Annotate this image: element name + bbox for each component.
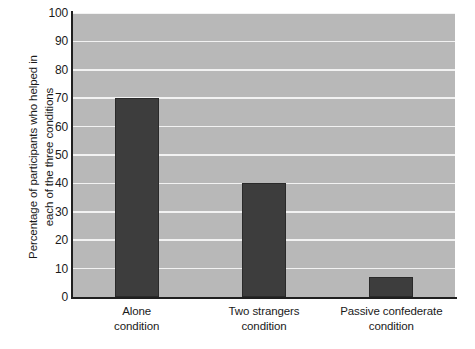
x-tick-label: Two strangerscondition <box>200 304 327 334</box>
x-tick-label-line-1: Two strangers <box>200 304 327 319</box>
x-tick-label-line-1: Passive confederate <box>328 304 455 319</box>
bar <box>242 183 286 297</box>
bar <box>369 277 413 297</box>
y-axis-line <box>71 11 73 299</box>
gridline <box>73 69 455 71</box>
x-tick-label: Alonecondition <box>73 304 200 334</box>
y-tick-label: 90 <box>36 35 68 47</box>
y-tick-label: 100 <box>36 7 68 19</box>
bar-chart-figure: Percentage of participants who helped in… <box>0 0 475 349</box>
x-tick-label: Passive confederatecondition <box>328 304 455 334</box>
x-tick-label-line-1: Alone <box>73 304 200 319</box>
gridline <box>73 41 455 43</box>
y-tick-label: 70 <box>36 92 68 104</box>
bar <box>115 98 159 297</box>
y-tick-label: 80 <box>36 64 68 76</box>
x-axis-line <box>71 297 457 299</box>
y-tick-label: 10 <box>36 263 68 275</box>
x-tick-label-line-2: condition <box>200 319 327 334</box>
y-tick-label: 30 <box>36 206 68 218</box>
y-axis-tick-labels: 1009080706050403020100 <box>36 13 68 297</box>
gridline <box>73 13 455 14</box>
y-tick-label: 60 <box>36 121 68 133</box>
plot-area <box>73 13 455 297</box>
y-tick-label: 20 <box>36 234 68 246</box>
x-axis-tick-labels: AloneconditionTwo strangersconditionPass… <box>73 304 455 344</box>
y-tick-label: 40 <box>36 177 68 189</box>
y-tick-label: 0 <box>36 291 68 303</box>
x-tick-label-line-2: condition <box>328 319 455 334</box>
y-tick-label: 50 <box>36 149 68 161</box>
x-tick-label-line-2: condition <box>73 319 200 334</box>
